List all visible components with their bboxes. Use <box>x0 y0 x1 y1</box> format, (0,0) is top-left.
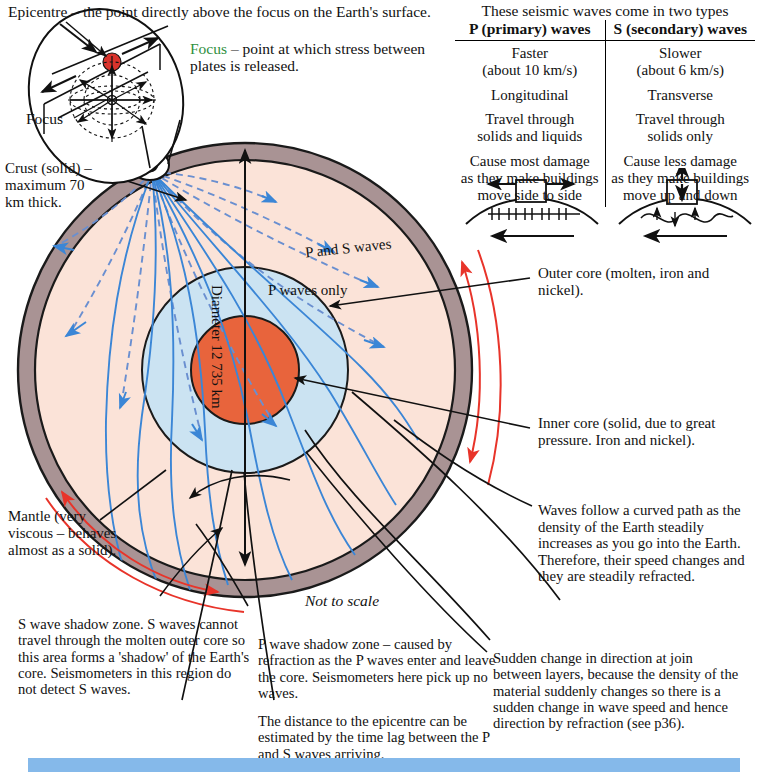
p-wave-shadow-zone-annotation: P wave shadow zone – caused by refractio… <box>258 636 498 701</box>
wave-table-body: Faster(about 10 km/s) Slower(about 6 km/… <box>455 41 755 208</box>
wave-table-header-p: P (primary) waves <box>455 20 605 41</box>
curved-path-annotation: Waves follow a curved path as the densit… <box>538 502 753 585</box>
cell-s-damage: Cause less damageas they make buildingsm… <box>605 149 755 207</box>
diagram-page: Epicentre – the point directly above the… <box>0 0 757 775</box>
wave-table-header-s: S (secondary) waves <box>605 20 755 41</box>
wave-types-table: These seismic waves come in two types P … <box>455 2 755 207</box>
bottom-accent-bar <box>28 758 740 772</box>
cell-s-type: Transverse <box>605 83 755 108</box>
cell-s-speed: Slower(about 6 km/s) <box>605 41 755 83</box>
focus-inset-label: Focus <box>26 110 63 127</box>
wave-table-header-row: P (primary) waves S (secondary) waves <box>455 20 755 41</box>
table-row: Longitudinal Transverse <box>455 83 755 108</box>
p-waves-only-label: P waves only <box>268 282 347 299</box>
cell-p-type: Longitudinal <box>455 83 605 108</box>
wave-table-title: These seismic waves come in two types <box>455 2 755 20</box>
crust-label: Crust (solid) – maximum 70 km thick. <box>5 160 100 210</box>
outer-core-label: Outer core (molten, iron and nickel). <box>538 265 753 299</box>
wave-table-grid: P (primary) waves S (secondary) waves Fa… <box>455 20 755 207</box>
mantle-label: Mantle (very viscous – behaves almost as… <box>8 508 128 558</box>
time-lag-annotation: The distance to the epicentre can be est… <box>258 713 503 762</box>
cell-p-damage: Cause most damageas they make buildingsm… <box>455 149 605 207</box>
cell-s-medium: Travel throughsolids only <box>605 107 755 149</box>
inner-core-label: Inner core (solid, due to great pressure… <box>538 415 753 449</box>
not-to-scale-note: Not to scale <box>305 592 379 609</box>
s-wave-shadow-zone-annotation: S wave shadow zone. S waves cannot trave… <box>18 616 253 698</box>
sudden-change-annotation: Sudden change in direction at join betwe… <box>493 650 743 732</box>
focus-caption: Focus – point at which stress between pl… <box>190 40 440 75</box>
table-row: Cause most damageas they make buildingsm… <box>455 149 755 207</box>
diameter-label: Diameter 12 735 km <box>208 285 225 409</box>
focus-keyword: Focus <box>190 40 227 57</box>
table-row: Travel throughsolids and liquids Travel … <box>455 107 755 149</box>
epicentre-caption: Epicentre – the point directly above the… <box>8 3 438 20</box>
cell-p-medium: Travel throughsolids and liquids <box>455 107 605 149</box>
table-row: Faster(about 10 km/s) Slower(about 6 km/… <box>455 41 755 83</box>
cell-p-speed: Faster(about 10 km/s) <box>455 41 605 83</box>
